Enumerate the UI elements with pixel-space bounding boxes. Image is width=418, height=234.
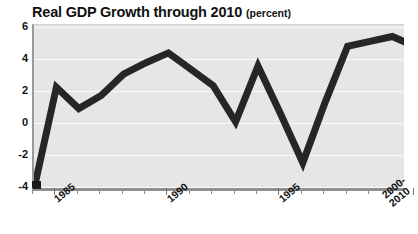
y-tick-label: -2 [4,149,28,160]
x-tick [211,188,212,194]
y-tick-label: 0 [4,117,28,128]
x-tick [99,188,100,194]
y-tick-label: 4 [4,53,28,64]
x-tick [122,188,123,194]
y-tick-label: 2 [4,85,28,96]
x-tick [346,188,347,194]
gdp-growth-chart: Real GDP Growth through 2010(percent) 6 … [0,0,418,234]
chart-subtitle: (percent) [246,7,291,19]
x-tick [368,188,369,194]
plot-area [32,24,404,188]
chart-title-block: Real GDP Growth through 2010(percent) [32,2,291,23]
x-tick [256,188,257,194]
x-tick [323,188,324,194]
x-tick [234,188,235,194]
y-tick-label: -4 [4,181,28,192]
x-tick [32,188,33,194]
start-point-marker [32,181,41,189]
x-axis [32,188,404,191]
y-axis: 6 4 2 0 -2 -4 [0,0,28,234]
x-tick [144,188,145,194]
page-title: Real GDP Growth through 2010 [32,4,242,20]
y-tick-label: 6 [4,21,28,32]
data-series-line [34,25,404,188]
